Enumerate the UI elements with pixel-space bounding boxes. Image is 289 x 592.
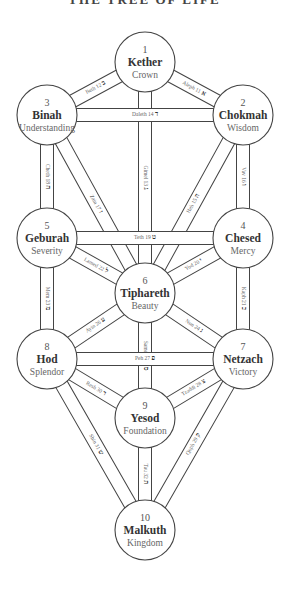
sephirah-meaning: Beauty [132, 301, 159, 311]
sephirah-chokmah: 2ChokmahWisdom [213, 85, 273, 145]
sephirah-meaning: Wisdom [227, 123, 259, 133]
sephirah-binah: 3BinahUnderstanding [17, 85, 77, 145]
sephirah-yesod: 9YesodFoundation [115, 388, 175, 448]
sephirah-name: Netzach [223, 353, 263, 365]
sephirah-name: Tiphareth [120, 287, 170, 300]
path-label: Tau ת 32 [142, 464, 149, 484]
path-label: Vav ו 16 [240, 167, 247, 186]
sephirah-number: 5 [45, 220, 50, 231]
sephirah-name: Chokmah [219, 109, 268, 121]
sephirah-malkuth: 10MalkuthKingdom [115, 500, 175, 560]
path-label: Teth ט 19 [134, 233, 156, 240]
sephirah-name: Malkuth [124, 524, 167, 536]
sephirah-number: 10 [140, 512, 150, 523]
sephirah-number: 4 [241, 220, 246, 231]
sephirah-name: Hod [36, 353, 58, 365]
sephirah-name: Binah [32, 109, 62, 121]
sephirah-number: 6 [143, 275, 148, 286]
sephirah-chesed: 4ChesedMercy [213, 208, 273, 268]
path-gimel: Gimel ג 13 [139, 62, 152, 293]
sephirah-number: 9 [143, 400, 148, 411]
sephirah-tiphareth: 6TipharethBeauty [115, 263, 175, 323]
sephirah-number: 8 [45, 341, 50, 352]
sephirah-kether: 1KetherCrown [115, 32, 175, 92]
tree-of-life-diagram: Aleph א 11Beth ב 12Gimel ג 13Daleth ד 14… [0, 0, 289, 592]
sephirah-number: 1 [143, 44, 148, 55]
sephirah-meaning: Severity [31, 246, 63, 256]
sephirah-meaning: Kingdom [127, 538, 164, 548]
sephirah-hod: 8HodSplendor [17, 329, 77, 389]
path-label: Kaph כ 21 [240, 287, 247, 310]
sephirah-meaning: Understanding [19, 123, 75, 133]
sephirah-geburah: 5GeburahSeverity [17, 208, 77, 268]
sephirah-meaning: Splendor [30, 367, 65, 377]
sephirah-meaning: Mercy [231, 246, 256, 256]
sephirah-meaning: Foundation [123, 426, 167, 436]
path-label: Gimel ג 13 [142, 165, 149, 189]
sephirah-name: Kether [128, 56, 162, 68]
path-label: Daleth ד 14 [132, 110, 158, 117]
sephirah-number: 3 [45, 97, 50, 108]
sephirah-number: 2 [241, 97, 246, 108]
sephirah-name: Geburah [25, 232, 70, 244]
path-label: Peh פ 27 [135, 354, 156, 361]
path-label: Cheth ח 18 [44, 164, 51, 189]
sephirah-number: 7 [241, 341, 246, 352]
sephirah-netzach: 7NetzachVictory [213, 329, 273, 389]
sephirah-name: Chesed [225, 232, 261, 244]
sephirah-meaning: Victory [229, 367, 258, 377]
sephirah-name: Yesod [131, 412, 160, 424]
path-label: Mem מ 23 [44, 287, 51, 311]
sephirah-meaning: Crown [132, 70, 158, 80]
